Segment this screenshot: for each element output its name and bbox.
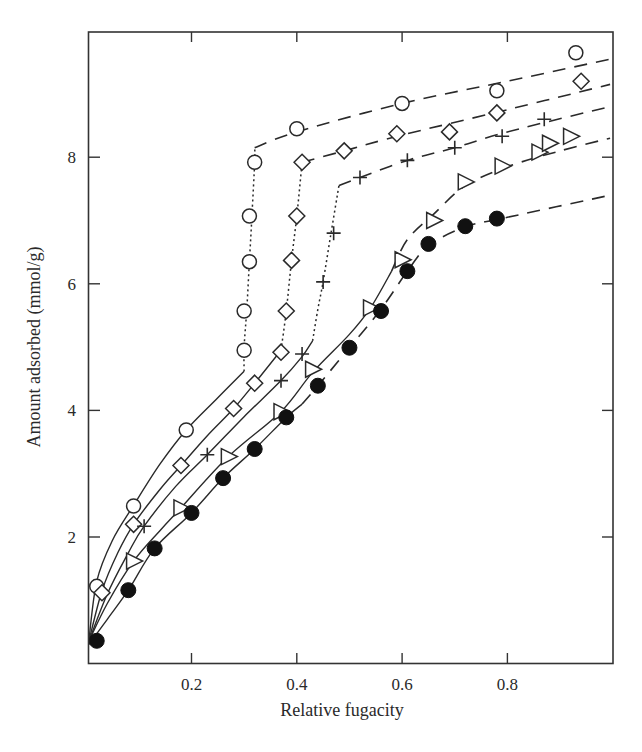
open-diamond-marker	[247, 375, 263, 391]
filled-circle-marker	[400, 264, 415, 279]
open-diamond-marker	[489, 105, 505, 121]
open-triangle-marker	[543, 135, 559, 151]
open-triangle-marker	[564, 128, 580, 144]
open-diamond-marker	[336, 143, 352, 159]
filled-circle-marker	[147, 541, 162, 556]
x-tick-label: 0.8	[497, 675, 518, 694]
y-tick-label: 6	[68, 275, 77, 294]
filled-circle-marker	[342, 340, 357, 355]
filled-circle-marker	[458, 219, 473, 234]
y-tick-label: 8	[68, 148, 77, 167]
data-markers	[89, 46, 589, 649]
plus-fit-solid	[89, 341, 313, 642]
x-tick-label: 0.4	[286, 675, 308, 694]
plus-marker	[327, 226, 341, 240]
open-circle-marker	[490, 84, 504, 98]
open-circle-marker	[248, 155, 262, 169]
open-circle-marker	[242, 209, 256, 223]
adsorption-isotherm-chart: 0.20.40.60.82468 Relative fugacity Amoun…	[0, 0, 642, 752]
plus-marker	[353, 170, 367, 184]
plus-marker	[400, 153, 414, 167]
filled-circle-marker	[279, 410, 294, 425]
open-triangle-marker	[458, 174, 474, 190]
open-diamond-marker	[573, 73, 589, 89]
open-diamond-marker	[389, 126, 405, 142]
open-triangle-marker	[427, 213, 443, 229]
plus-marker	[448, 141, 462, 155]
filled-circle-marker	[489, 211, 504, 226]
open-triangle-marker	[127, 553, 143, 569]
open-circle-marker	[237, 343, 251, 357]
open-circle-marker	[569, 46, 583, 60]
open-triangle-marker	[495, 158, 511, 174]
y-tick-label: 4	[68, 401, 77, 420]
open-circle-marker	[179, 423, 193, 437]
open-circle-marker	[242, 255, 256, 269]
plus-fit-dashed	[339, 107, 610, 186]
open-diamond-marker	[441, 124, 457, 140]
filled-circle-marker	[184, 505, 199, 520]
filled-circle-marker	[121, 583, 136, 598]
open-diamond-marker	[126, 516, 142, 532]
x-tick-label: 0.2	[181, 675, 202, 694]
open-diamond-marker	[294, 154, 310, 170]
open-circle-fit-solid	[89, 371, 244, 641]
filled-circle-marker	[374, 304, 389, 319]
filled-circle-marker	[310, 378, 325, 393]
open-circle-fit-dashed	[255, 59, 610, 148]
filled-circle-marker	[89, 633, 104, 648]
open-triangle-marker	[306, 361, 322, 377]
plus-marker	[316, 275, 330, 289]
open-circle-marker	[395, 96, 409, 110]
open-circle-marker	[237, 304, 251, 318]
open-diamond-marker	[289, 208, 305, 224]
y-tick-label: 2	[68, 528, 77, 547]
open-diamond-fit-solid	[89, 350, 281, 641]
open-circle-marker	[290, 122, 304, 136]
y-axis-title: Amount adsorbed (mmol/g)	[24, 247, 45, 448]
filled-circle-marker	[247, 442, 262, 457]
filled-circle-marker	[216, 471, 231, 486]
open-diamond-marker	[284, 252, 300, 268]
open-diamond-marker	[278, 303, 294, 319]
x-axis-title: Relative fugacity	[280, 700, 403, 720]
open-triangle-fit-dashed	[392, 138, 610, 271]
plus-step-dotted	[313, 186, 339, 341]
open-circle-marker	[127, 499, 141, 513]
x-tick-label: 0.6	[391, 675, 412, 694]
filled-circle-marker	[421, 236, 436, 251]
filled-circle-fit-dashed	[302, 195, 610, 404]
